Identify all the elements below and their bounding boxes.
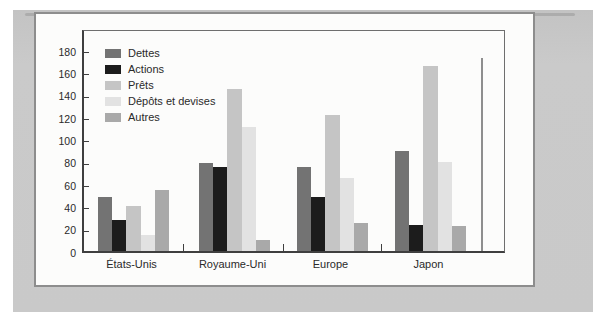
bar-pr-ts-2 bbox=[325, 115, 339, 251]
legend-label-4: Autres bbox=[128, 110, 160, 125]
ytick-label-160: 160 bbox=[42, 69, 76, 80]
bar-autres-3 bbox=[452, 226, 466, 251]
legend-swatch-3 bbox=[105, 97, 121, 106]
ytick-mark-100 bbox=[84, 141, 89, 142]
ytick-mark-120 bbox=[84, 119, 89, 120]
bar-actions-2 bbox=[311, 197, 325, 251]
category-label-1: Royaume-Uni bbox=[188, 258, 278, 270]
category-label-2: Europe bbox=[286, 258, 376, 270]
bar-actions-3 bbox=[409, 225, 423, 251]
ytick-label-0: 0 bbox=[42, 248, 76, 259]
bar-d-p-ts-et-devises-0 bbox=[141, 235, 155, 251]
figure-scan: % DettesActionsPrêtsDépôts et devisesAut… bbox=[0, 0, 593, 312]
legend-label-0: Dettes bbox=[128, 46, 160, 61]
plot-area: DettesActionsPrêtsDépôts et devisesAutre… bbox=[82, 30, 505, 253]
legend-label-3: Dépôts et devises bbox=[128, 94, 215, 109]
ytick-label-140: 140 bbox=[42, 91, 76, 102]
bar-pr-ts-0 bbox=[126, 206, 140, 251]
category-label-0: États-Unis bbox=[87, 258, 177, 270]
bar-dettes-0 bbox=[98, 197, 112, 251]
bar-actions-1 bbox=[213, 167, 227, 251]
legend-swatch-1 bbox=[105, 65, 121, 74]
bar-autres-1 bbox=[256, 240, 270, 251]
ytick-label-120: 120 bbox=[42, 114, 76, 125]
bar-d-p-ts-et-devises-2 bbox=[340, 178, 354, 251]
bar-actions-0 bbox=[112, 220, 126, 251]
ytick-label-100: 100 bbox=[42, 136, 76, 147]
bar-dettes-1 bbox=[199, 163, 213, 251]
ytick-label-40: 40 bbox=[42, 203, 76, 214]
vertical-line bbox=[481, 58, 483, 251]
xtick-mark-2 bbox=[381, 244, 382, 251]
ytick-mark-160 bbox=[84, 74, 89, 75]
bar-autres-2 bbox=[354, 223, 368, 251]
ytick-label-20: 20 bbox=[42, 225, 76, 236]
legend-swatch-2 bbox=[105, 81, 121, 90]
ytick-label-60: 60 bbox=[42, 181, 76, 192]
bar-d-p-ts-et-devises-3 bbox=[438, 162, 452, 251]
ytick-mark-80 bbox=[84, 164, 89, 165]
ytick-mark-20 bbox=[84, 231, 89, 232]
ytick-mark-40 bbox=[84, 208, 89, 209]
ytick-label-180: 180 bbox=[42, 47, 76, 58]
bar-pr-ts-3 bbox=[423, 66, 437, 251]
xtick-mark-0 bbox=[183, 244, 184, 251]
figure-panel: % DettesActionsPrêtsDépôts et devisesAut… bbox=[34, 12, 535, 287]
bar-dettes-2 bbox=[297, 167, 311, 251]
bar-pr-ts-1 bbox=[227, 89, 241, 251]
bar-d-p-ts-et-devises-1 bbox=[242, 127, 256, 251]
ytick-mark-60 bbox=[84, 186, 89, 187]
legend-swatch-0 bbox=[105, 49, 121, 58]
ytick-label-80: 80 bbox=[42, 158, 76, 169]
ytick-mark-140 bbox=[84, 97, 89, 98]
legend-swatch-4 bbox=[105, 113, 121, 122]
bar-autres-0 bbox=[155, 190, 169, 251]
legend-label-1: Actions bbox=[128, 62, 164, 77]
legend-label-2: Prêts bbox=[128, 78, 154, 93]
bar-dettes-3 bbox=[395, 151, 409, 252]
ytick-mark-180 bbox=[84, 52, 89, 53]
xtick-mark-1 bbox=[283, 244, 284, 251]
category-label-3: Japon bbox=[384, 258, 474, 270]
